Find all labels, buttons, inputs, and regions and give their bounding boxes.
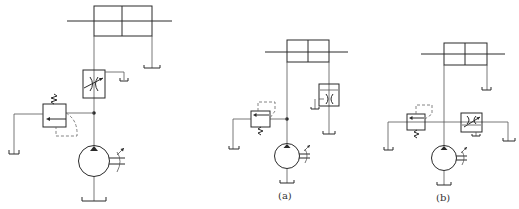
tank-icon bbox=[503, 138, 515, 141]
spring-icon bbox=[258, 127, 263, 135]
variable-pump-icon bbox=[432, 146, 468, 186]
circuit-a bbox=[229, 40, 348, 183]
relief-valve-icon bbox=[229, 102, 275, 149]
caption-a: (a) bbox=[278, 190, 292, 201]
throttle-valve-icon bbox=[311, 84, 339, 109]
tank-icon bbox=[482, 87, 491, 90]
throttle-valve-icon bbox=[83, 70, 128, 98]
cylinder-icon bbox=[265, 40, 348, 62]
cylinder-icon bbox=[421, 43, 505, 65]
spring-icon bbox=[51, 94, 57, 104]
spring-icon bbox=[414, 130, 419, 138]
circuit-b bbox=[384, 43, 515, 185]
relief-valve-icon bbox=[407, 105, 432, 138]
tank-icon bbox=[384, 147, 393, 150]
circuit-main bbox=[9, 6, 172, 201]
cylinder-icon bbox=[67, 6, 172, 36]
throttle-valve-icon bbox=[461, 113, 482, 136]
variable-pump-icon bbox=[275, 144, 311, 184]
variable-pump-icon bbox=[79, 146, 126, 202]
hydraulic-diagrams bbox=[0, 0, 519, 209]
caption-b: (b) bbox=[436, 192, 450, 203]
tank-icon bbox=[229, 146, 239, 149]
relief-valve-icon bbox=[9, 94, 77, 154]
